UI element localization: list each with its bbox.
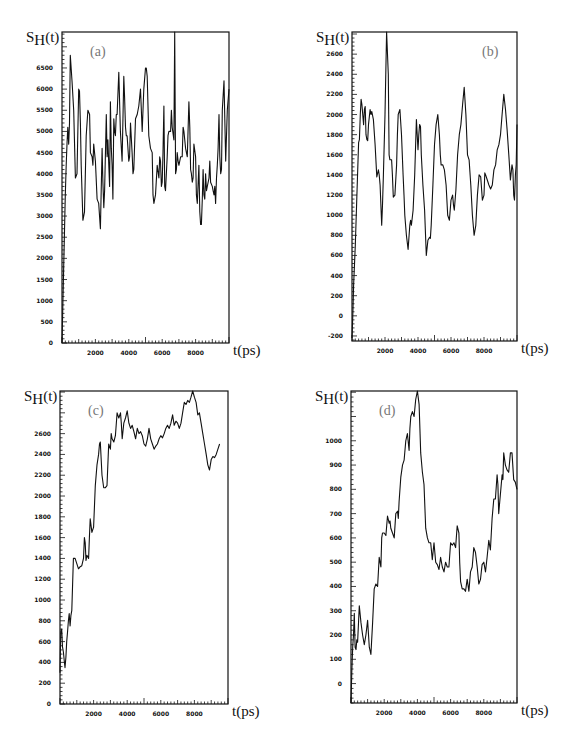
x-tick-label: 4000 xyxy=(119,710,136,717)
y-tick-label: 1000 xyxy=(326,211,343,218)
panel-d: 01002003004005006007008009001000 2000400… xyxy=(315,388,549,719)
y-tick-label: 5000 xyxy=(36,127,53,134)
y-tick-label: 2600 xyxy=(34,430,51,437)
y-tick-label: 2400 xyxy=(326,70,343,77)
y-tick-label: 600 xyxy=(330,251,343,258)
y-tick-label: 2000 xyxy=(36,254,53,261)
x-tick-label: 6000 xyxy=(152,710,169,717)
y-tick-label: 6000 xyxy=(36,85,53,92)
y-tick-label: 2400 xyxy=(34,450,51,457)
data-line xyxy=(352,32,517,338)
axis-ticks xyxy=(352,34,517,341)
x-tick-label: 6000 xyxy=(443,347,460,354)
y-axis-label: SH(t) xyxy=(26,29,59,48)
x-tick-label: 4000 xyxy=(410,347,427,354)
x-tick-label: 8000 xyxy=(476,347,493,354)
data-line xyxy=(62,32,229,343)
panel-label: (c) xyxy=(88,403,104,419)
y-tick-label: 1500 xyxy=(36,276,53,283)
y-tick-label: 0 xyxy=(339,312,343,319)
y-tick-label: 1600 xyxy=(326,151,343,158)
x-tick-label: 8000 xyxy=(475,709,492,716)
x-tick-labels: 2000400060008000 xyxy=(376,709,492,716)
data-line xyxy=(60,391,220,673)
y-tick-label: 300 xyxy=(329,607,342,614)
y-tick-label: 1800 xyxy=(326,131,343,138)
panel-label: (a) xyxy=(90,44,106,60)
y-tick-label: 4000 xyxy=(36,170,53,177)
y-tick-labels: 0500100015002000250030003500400045005000… xyxy=(36,64,53,346)
x-tick-label: 8000 xyxy=(186,710,203,717)
y-tick-label: 1400 xyxy=(326,171,343,178)
x-tick-label: 2000 xyxy=(87,349,104,356)
x-axis-label: t(ps) xyxy=(521,702,549,719)
y-tick-label: 6500 xyxy=(36,64,53,71)
y-tick-label: 1000 xyxy=(36,297,53,304)
y-tick-label: 1600 xyxy=(34,534,51,541)
y-axis-label: SH(t) xyxy=(316,29,349,48)
x-tick-label: 2000 xyxy=(85,710,102,717)
x-tick-labels: 2000400060008000 xyxy=(87,349,204,356)
x-tick-label: 8000 xyxy=(187,349,204,356)
y-tick-label: 2000 xyxy=(326,111,343,118)
panel-b: -200020040060080010001200140016001800200… xyxy=(316,29,549,357)
y-tick-label: 200 xyxy=(38,679,51,686)
y-axis-label: SH(t) xyxy=(24,388,57,407)
y-tick-label: 1200 xyxy=(34,575,51,582)
x-axis-label: t(ps) xyxy=(521,340,549,357)
y-tick-label: 0 xyxy=(49,339,53,346)
y-tick-label: 2600 xyxy=(326,50,343,57)
y-tick-label: 100 xyxy=(329,655,342,662)
y-tick-label: 3000 xyxy=(36,212,53,219)
y-tick-label: 2200 xyxy=(326,90,343,97)
y-tick-label: 2200 xyxy=(34,471,51,478)
y-tick-label: 1200 xyxy=(326,191,343,198)
x-tick-label: 2000 xyxy=(377,347,394,354)
y-tick-label: 400 xyxy=(329,582,342,589)
x-tick-label: 4000 xyxy=(409,709,426,716)
y-tick-label: 700 xyxy=(329,510,342,517)
x-tick-label: 2000 xyxy=(376,709,393,716)
y-tick-label: 2000 xyxy=(34,492,51,499)
y-tick-label: 500 xyxy=(40,318,53,325)
y-tick-labels: 0200400600800100012001400160018002000220… xyxy=(34,430,51,707)
y-tick-label: 500 xyxy=(329,558,342,565)
y-tick-label: 5500 xyxy=(36,106,53,113)
y-tick-label: 400 xyxy=(330,272,343,279)
y-tick-label: 2500 xyxy=(36,233,53,240)
y-tick-label: 800 xyxy=(329,485,342,492)
y-tick-label: 1800 xyxy=(34,513,51,520)
x-tick-labels: 2000400060008000 xyxy=(85,710,203,717)
y-tick-labels: -200020040060080010001200140016001800200… xyxy=(326,50,343,339)
y-tick-label: 3500 xyxy=(36,191,53,198)
y-tick-label: 0 xyxy=(338,680,342,687)
x-tick-label: 4000 xyxy=(120,349,137,356)
y-tick-label: 800 xyxy=(330,231,343,238)
y-tick-label: 4500 xyxy=(36,149,53,156)
y-tick-label: 200 xyxy=(329,631,342,638)
y-tick-label: 0 xyxy=(47,700,51,707)
x-axis-label: t(ps) xyxy=(232,703,260,720)
panel-label: (b) xyxy=(482,44,499,60)
y-tick-label: 600 xyxy=(329,534,342,541)
y-tick-label: 1000 xyxy=(34,596,51,603)
y-tick-label: 200 xyxy=(330,292,343,299)
y-tick-label: 800 xyxy=(38,617,51,624)
y-axis-label: SH(t) xyxy=(315,388,348,407)
y-tick-label: 1000 xyxy=(325,437,342,444)
y-tick-label: 400 xyxy=(38,658,51,665)
panel-label: (d) xyxy=(379,403,396,419)
y-tick-label: 900 xyxy=(329,461,342,468)
figure: 0500100015002000250030003500400045005000… xyxy=(0,0,571,742)
y-tick-labels: 01002003004005006007008009001000 xyxy=(325,437,342,687)
y-tick-label: 1400 xyxy=(34,554,51,561)
data-line xyxy=(351,391,517,703)
x-tick-label: 6000 xyxy=(154,349,171,356)
panel-c: 0200400600800100012001400160018002000220… xyxy=(24,388,260,720)
x-tick-label: 6000 xyxy=(442,709,459,716)
panel-a: 0500100015002000250030003500400045005000… xyxy=(26,29,261,359)
x-tick-labels: 2000400060008000 xyxy=(377,347,493,354)
x-axis-label: t(ps) xyxy=(233,342,261,359)
y-tick-label: -200 xyxy=(328,332,343,339)
y-tick-label: 600 xyxy=(38,638,51,645)
